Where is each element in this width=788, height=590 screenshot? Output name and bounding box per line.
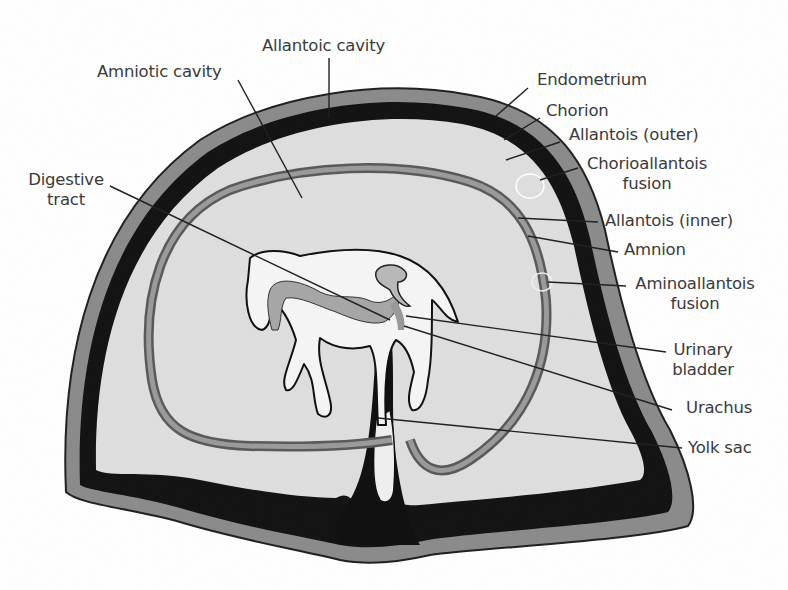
label-urinary-line1: Urinary xyxy=(668,340,738,360)
label-amnion: Amnion xyxy=(624,240,686,260)
label-chorioallantois-fusion: Chorioallantois fusion xyxy=(582,154,712,194)
label-digestive-tract: Digestive tract xyxy=(24,170,108,210)
label-allantois-inner: Allantois (inner) xyxy=(605,211,733,231)
label-chorion: Chorion xyxy=(546,101,609,121)
label-digestive-tract-line2: tract xyxy=(24,190,108,210)
label-chorioallantois-line1: Chorioallantois xyxy=(582,154,712,174)
label-digestive-tract-line1: Digestive xyxy=(24,170,108,190)
label-allantoic-cavity: Allantoic cavity xyxy=(262,36,385,56)
label-allantois-outer: Allantois (outer) xyxy=(569,125,698,145)
label-chorioallantois-line2: fusion xyxy=(582,174,712,194)
label-amniotic-cavity: Amniotic cavity xyxy=(97,62,222,82)
label-urachus: Urachus xyxy=(686,398,752,418)
label-urinary-bladder: Urinary bladder xyxy=(668,340,738,380)
label-aminoallantois-fusion: Aminoallantois fusion xyxy=(630,274,760,314)
label-aminoallantois-line1: Aminoallantois xyxy=(630,274,760,294)
label-aminoallantois-line2: fusion xyxy=(630,294,760,314)
label-endometrium: Endometrium xyxy=(537,70,647,90)
label-urinary-line2: bladder xyxy=(668,360,738,380)
label-yolk-sac: Yolk sac xyxy=(688,438,752,458)
